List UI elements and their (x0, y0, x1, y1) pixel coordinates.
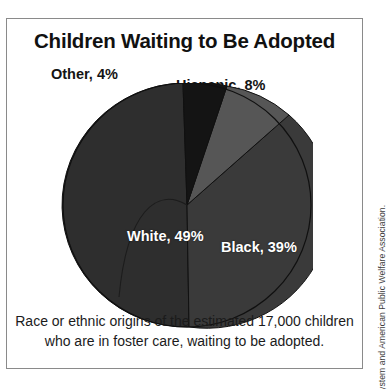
caption-line-1: Race or ethnic origins of the estimated … (7, 312, 362, 332)
pie-label-black: Black, 39% (221, 239, 297, 255)
source-text: Source: Voluntary Cooperative Informatio… (377, 205, 387, 389)
caption-line-2: who are in foster care, waiting to be ad… (7, 332, 362, 352)
source-attribution: Source: Voluntary Cooperative Informatio… (374, 0, 390, 389)
pie-chart: White, 49% Black, 39% (61, 83, 313, 333)
pie-chart-svg (61, 83, 313, 333)
chart-caption: Race or ethnic origins of the estimated … (7, 312, 362, 352)
pie-callout-other: Other, 4% (51, 66, 118, 82)
chart-figure: Children Waiting to Be Adopted Other, 4%… (6, 18, 363, 369)
chart-title: Children Waiting to Be Adopted (7, 29, 362, 53)
pie-slice-white (62, 83, 189, 327)
pie-label-white: White, 49% (127, 228, 204, 244)
